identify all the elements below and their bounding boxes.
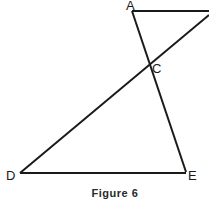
geometry-figure: A C D E xyxy=(0,0,209,207)
point-label-a: A xyxy=(126,0,135,13)
point-label-d: D xyxy=(6,168,15,183)
point-label-e: E xyxy=(188,168,197,183)
point-label-c: C xyxy=(152,61,161,76)
figure-caption: Figure 6 xyxy=(0,187,209,199)
segment-ae xyxy=(132,11,186,172)
segment-dc-extended xyxy=(20,15,209,173)
